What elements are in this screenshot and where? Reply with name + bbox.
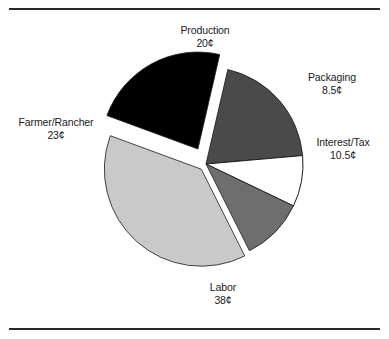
bottom-rule	[9, 328, 380, 330]
slice-label-interest-tax: Interest/Tax 10.5¢	[300, 136, 386, 161]
slice-label-production-name: Production	[152, 24, 258, 37]
slice-label-farmer-rancher-name: Farmer/Rancher	[2, 116, 110, 129]
slice-label-labor-name: Labor	[175, 281, 271, 294]
slice-label-production-value: 20¢	[152, 37, 258, 50]
figure-container: Production 20¢ Packaging 8.5¢ Interest/T…	[0, 0, 389, 339]
slice-label-production: Production 20¢	[152, 24, 258, 49]
slice-label-labor: Labor 38¢	[175, 281, 271, 306]
slice-label-packaging-name: Packaging	[284, 71, 380, 84]
slice-label-packaging-value: 8.5¢	[284, 84, 380, 97]
slice-label-labor-value: 38¢	[175, 294, 271, 307]
slice-label-interest-tax-value: 10.5¢	[300, 149, 386, 162]
pie-slice-farmer-rancher	[107, 52, 220, 149]
pie-slices-group	[104, 52, 303, 266]
slice-label-farmer-rancher-value: 23¢	[2, 129, 110, 142]
slice-label-interest-tax-name: Interest/Tax	[300, 136, 386, 149]
slice-label-farmer-rancher: Farmer/Rancher 23¢	[2, 116, 110, 141]
slice-label-packaging: Packaging 8.5¢	[284, 71, 380, 96]
